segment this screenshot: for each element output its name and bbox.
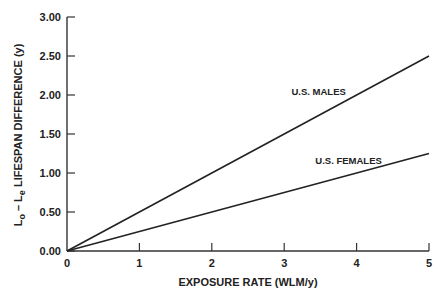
x-tick-label: 2 bbox=[209, 257, 215, 269]
x-axis: 012345 bbox=[64, 243, 432, 269]
series-label: U.S. MALES bbox=[291, 86, 345, 97]
x-tick-label: 1 bbox=[136, 257, 142, 269]
x-tick-label: 3 bbox=[281, 257, 287, 269]
y-tick-label: 2.50 bbox=[40, 50, 61, 62]
y-title-dash: – bbox=[12, 202, 24, 214]
y-tick-label: 1.00 bbox=[40, 167, 61, 179]
x-tick-label: 4 bbox=[354, 257, 361, 269]
series-label: U.S. FEMALES bbox=[315, 155, 382, 166]
y-tick-label: 0.00 bbox=[40, 245, 61, 257]
x-tick-label: 5 bbox=[426, 257, 432, 269]
series-group: U.S. MALESU.S. FEMALES bbox=[67, 56, 429, 251]
line-chart: 0.000.501.001.502.002.503.00 012345 U.S.… bbox=[0, 0, 440, 294]
y-tick-label: 2.00 bbox=[40, 89, 61, 101]
y-tick-label: 0.50 bbox=[40, 206, 61, 218]
y-tick-label: 3.00 bbox=[40, 11, 61, 23]
y-title-rest: LIFESPAN DIFFERENCE (y) bbox=[12, 43, 24, 190]
y-axis: 0.000.501.001.502.002.503.00 bbox=[40, 11, 75, 257]
series-line-u-s-males bbox=[67, 56, 429, 251]
y-tick-label: 1.50 bbox=[40, 128, 61, 140]
series-line-u-s-females bbox=[67, 154, 429, 252]
y-axis-title: Lo – Le LIFESPAN DIFFERENCE (y) bbox=[12, 43, 27, 226]
x-axis-title: EXPOSURE RATE (WLM/y) bbox=[178, 276, 317, 288]
x-tick-label: 0 bbox=[64, 257, 70, 269]
